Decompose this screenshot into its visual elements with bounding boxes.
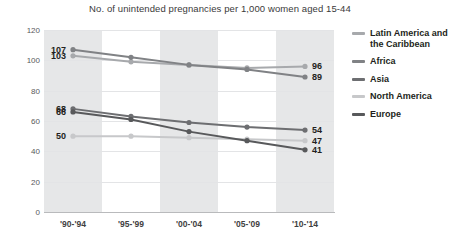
data-point (302, 74, 307, 79)
chart-container: No. of unintended pregnancies per 1,000 … (0, 0, 463, 248)
y-tick-label: 0 (10, 208, 40, 217)
series-line (73, 109, 305, 130)
legend-item-label: Asia (370, 74, 389, 85)
x-tick-label: '95-'99 (118, 219, 144, 229)
y-tick-label: 40 (10, 147, 40, 156)
legend-item-label: Africa (370, 56, 396, 67)
data-point (70, 134, 75, 139)
data-point (186, 62, 191, 67)
chart-title: No. of unintended pregnancies per 1,000 … (0, 3, 440, 14)
legend-item-label: Europe (370, 109, 401, 120)
data-point (244, 124, 249, 129)
y-tick-label: 60 (10, 117, 40, 126)
data-point (302, 64, 307, 69)
legend-swatch-icon (352, 60, 365, 63)
plot-area (44, 30, 334, 212)
point-value-label: 96 (312, 61, 322, 71)
legend-swatch-icon (352, 32, 365, 35)
legend-item-label-line2: the Caribbean (370, 39, 430, 49)
data-point (302, 147, 307, 152)
data-point (244, 67, 249, 72)
point-value-label: 107 (51, 45, 66, 55)
data-point (244, 138, 249, 143)
point-value-label: 89 (312, 72, 322, 82)
y-tick-label: 80 (10, 86, 40, 95)
x-tick-label: '05-'09 (234, 219, 260, 229)
x-tick-label: '10-'14 (292, 219, 318, 229)
data-point (70, 109, 75, 114)
legend-item-africa[interactable]: Africa (352, 56, 463, 67)
y-tick-label: 20 (10, 177, 40, 186)
point-value-label: 66 (56, 107, 66, 117)
y-tick-label: 120 (10, 26, 40, 35)
legend-item-north-america[interactable]: North America (352, 91, 463, 102)
data-point (128, 59, 133, 64)
data-point (70, 47, 75, 52)
y-tick-label: 100 (10, 56, 40, 65)
x-axis-line (44, 212, 335, 213)
y-axis-tick-labels: 020406080100120 (0, 0, 40, 248)
data-point (128, 55, 133, 60)
data-point (128, 134, 133, 139)
x-tick-label: '90-'94 (60, 219, 86, 229)
legend-item-europe[interactable]: Europe (352, 109, 463, 120)
legend-swatch-icon (352, 113, 365, 116)
data-point (302, 128, 307, 133)
legend-item-latin-america-and-the-caribbean[interactable]: Latin America andthe Caribbean (352, 28, 463, 49)
legend-item-asia[interactable]: Asia (352, 74, 463, 85)
data-point (128, 117, 133, 122)
data-point (186, 120, 191, 125)
legend: Latin America andthe CaribbeanAfricaAsia… (352, 28, 463, 126)
x-tick-label: '00-'04 (176, 219, 202, 229)
legend-swatch-icon (352, 95, 365, 98)
data-point (186, 135, 191, 140)
data-point (302, 138, 307, 143)
data-point (70, 53, 75, 58)
point-value-label: 41 (312, 145, 322, 155)
legend-item-label: North America (370, 91, 432, 102)
series-lines (44, 30, 334, 212)
point-value-label: 54 (312, 125, 322, 135)
legend-swatch-icon (352, 78, 365, 81)
data-point (186, 129, 191, 134)
legend-item-label: Latin America andthe Caribbean (370, 28, 448, 49)
point-value-label: 50 (56, 131, 66, 141)
